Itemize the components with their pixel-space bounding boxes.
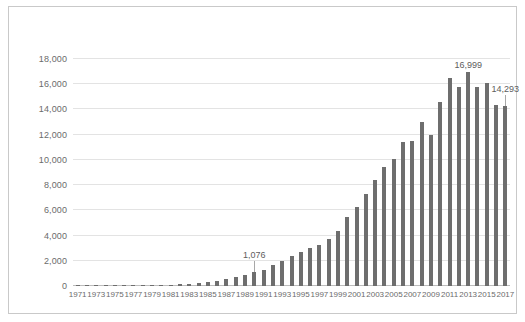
bar	[308, 248, 312, 286]
bar	[104, 285, 108, 286]
bar	[466, 72, 470, 286]
bar	[485, 83, 489, 286]
bar	[457, 87, 461, 286]
x-axis-tick-label: 1997	[310, 290, 328, 299]
y-axis-tick-label: 2,000	[44, 256, 67, 266]
bar	[252, 272, 256, 286]
x-axis-tick-label: 2005	[385, 290, 403, 299]
chart-frame: 02,0004,0006,0008,00010,00012,00014,0001…	[8, 6, 517, 314]
x-axis-tick-label: 2015	[478, 290, 496, 299]
y-axis-tick-label: 8,000	[44, 180, 67, 190]
y-axis-tick-label: 14,000	[39, 104, 67, 114]
bar	[271, 265, 275, 286]
bar	[290, 256, 294, 286]
x-axis-tick-label: 1999	[329, 290, 347, 299]
x-axis-tick-label: 1993	[273, 290, 291, 299]
x-axis-tick-label: 2009	[422, 290, 440, 299]
x-axis-tick-label: 1989	[236, 290, 254, 299]
bar	[373, 180, 377, 286]
bar-series	[73, 59, 510, 286]
x-axis-tick-label: 1985	[199, 290, 217, 299]
chart-figure: 02,0004,0006,0008,00010,00012,00014,0001…	[0, 0, 525, 322]
y-axis-tick-label: 0	[62, 281, 67, 291]
leader-line	[254, 261, 255, 272]
leader-line	[505, 95, 506, 106]
data-label-16999: 16,999	[454, 60, 482, 70]
x-axis-tick-label: 1983	[180, 290, 198, 299]
x-axis-tick-label: 1977	[125, 290, 143, 299]
x-axis-tick-label: 2003	[366, 290, 384, 299]
bar	[429, 135, 433, 286]
bar	[234, 277, 238, 286]
bar	[150, 285, 154, 286]
x-axis-tick-label: 2013	[459, 290, 477, 299]
bar	[503, 106, 507, 286]
x-axis-tick-label: 1987	[218, 290, 236, 299]
x-axis-tick-label: 2011	[441, 290, 458, 299]
bar	[178, 284, 182, 286]
bar	[224, 279, 228, 286]
x-axis-tick-label: 1995	[292, 290, 310, 299]
bar	[345, 217, 349, 286]
bar	[299, 252, 303, 286]
data-label-1076: 1,076	[243, 250, 266, 260]
y-axis-tick-label: 6,000	[44, 205, 67, 215]
x-axis-tick-label: 1979	[143, 290, 161, 299]
bar	[280, 261, 284, 286]
bar	[131, 285, 135, 286]
bar	[438, 102, 442, 286]
bar	[85, 285, 89, 286]
bar	[169, 285, 173, 286]
x-axis-tick-label: 2001	[348, 290, 366, 299]
x-axis-tick-label: 2017	[496, 290, 514, 299]
bar	[494, 105, 498, 286]
bar	[355, 207, 359, 286]
data-label-14293: 14,293	[492, 84, 520, 94]
bar	[206, 282, 210, 286]
bar	[317, 245, 321, 286]
bar	[159, 285, 163, 286]
bar	[76, 285, 80, 286]
bar	[364, 194, 368, 286]
y-axis-tick-label: 16,000	[39, 79, 67, 89]
bar	[475, 87, 479, 286]
x-axis-labels: 1971197319751977197919811983198519871989…	[73, 290, 510, 306]
bar	[392, 159, 396, 286]
bar	[262, 270, 266, 286]
bar	[327, 239, 331, 286]
y-axis-labels: 02,0004,0006,0008,00010,00012,00014,0001…	[9, 59, 67, 286]
y-axis-tick-label: 12,000	[39, 130, 67, 140]
bar	[448, 78, 452, 286]
bar	[420, 122, 424, 286]
bar	[243, 275, 247, 286]
bar	[215, 281, 219, 286]
bar	[382, 167, 386, 286]
bar	[410, 141, 414, 286]
y-axis-tick-label: 4,000	[44, 231, 67, 241]
plot-area: 1,07616,99914,293	[73, 59, 510, 286]
y-axis-tick-label: 10,000	[39, 155, 67, 165]
bar	[187, 284, 191, 286]
x-axis-tick-label: 2007	[403, 290, 421, 299]
bar	[197, 283, 201, 286]
x-axis-tick-label: 1971	[69, 290, 87, 299]
bar	[113, 285, 117, 286]
x-axis-tick-label: 1991	[255, 290, 273, 299]
bar	[94, 285, 98, 286]
bar	[122, 285, 126, 286]
y-axis-tick-label: 18,000	[39, 54, 67, 64]
bar	[336, 231, 340, 286]
x-axis-tick-label: 1973	[87, 290, 105, 299]
bar	[401, 142, 405, 286]
x-axis-tick-label: 1981	[162, 290, 180, 299]
x-axis-tick-label: 1975	[106, 290, 124, 299]
bar	[141, 285, 145, 286]
